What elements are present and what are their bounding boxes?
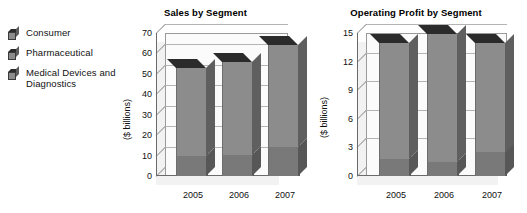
bar-segment-side	[252, 53, 261, 155]
bar-segment	[475, 43, 505, 153]
bar-top-face	[475, 34, 505, 43]
bar-segment	[379, 159, 409, 176]
chart-title: Sales by Segment	[108, 7, 303, 18]
cube-icon	[8, 49, 19, 60]
y-axis-tick-label: 70	[142, 28, 152, 38]
bar-segment-side	[457, 25, 466, 162]
bar-segment	[475, 152, 505, 176]
chart-operating-profit-by-segment: Operating Profit by Segment ($ billions)…	[305, 0, 527, 213]
y-axis-tick-label: 0	[348, 171, 353, 181]
x-axis-tick-label: 2005	[386, 190, 406, 200]
bar-segment-front	[427, 162, 459, 176]
bar-segment	[427, 34, 457, 162]
plot-area: 03691215200520062007	[357, 33, 507, 185]
bar-segment-front	[427, 34, 459, 162]
plot-floor	[156, 176, 279, 185]
bar-segment-front	[176, 68, 208, 156]
y-axis-tick-label: 0	[147, 171, 152, 181]
bar-segment-front	[475, 152, 507, 176]
y-axis-tick-label: 10	[142, 151, 152, 161]
cube-icon	[8, 69, 19, 80]
y-axis-tick-label: 15	[343, 28, 353, 38]
y-axis-tick-label: 60	[142, 48, 152, 58]
bar-top-face	[268, 36, 298, 45]
bar-segment	[222, 155, 252, 176]
y-axis-tick-label: 9	[348, 85, 353, 95]
y-axis-label: ($ billions)	[319, 97, 329, 138]
bar-top-face	[379, 34, 409, 43]
bar-segment	[427, 162, 457, 176]
bar-segment	[176, 68, 206, 156]
bar-segment-side	[206, 59, 215, 156]
y-axis-tick-label: 50	[142, 69, 152, 79]
chart-title: Operating Profit by Segment	[305, 7, 527, 18]
legend-item-label: Consumer	[26, 27, 71, 38]
bar-segment-front	[268, 147, 300, 176]
x-axis-tick-label: 2005	[183, 190, 203, 200]
bar-top-face	[222, 53, 252, 62]
plot-floor	[357, 176, 498, 185]
chart-figure: Consumer Pharmaceutical Medical Devices …	[0, 0, 527, 213]
x-axis-tick-label: 2006	[434, 190, 454, 200]
x-axis-tick-label: 2007	[482, 190, 502, 200]
bar-segment	[379, 43, 409, 159]
y-axis-tick-label: 40	[142, 89, 152, 99]
plot-area: 010203040506070200520062007	[156, 33, 288, 185]
y-axis-tick-label: 6	[348, 114, 353, 124]
bar-segment-side	[505, 34, 514, 153]
bar-segment	[176, 156, 206, 176]
chart-sales-by-segment: Sales by Segment ($ billions) 0102030405…	[108, 0, 303, 213]
y-axis-line	[357, 33, 358, 176]
cube-icon	[8, 29, 19, 40]
y-axis-tick-label: 20	[142, 130, 152, 140]
bar-segment-front	[222, 62, 254, 155]
bar-segment	[268, 45, 298, 147]
bar-segment-front	[379, 159, 411, 176]
bar-segment	[222, 62, 252, 155]
bar-top-face	[427, 25, 457, 34]
bar-segment-front	[176, 156, 208, 176]
y-axis-label: ($ billions)	[122, 99, 132, 140]
bar-segment-front	[268, 45, 300, 147]
y-axis-tick-label: 3	[348, 142, 353, 152]
bar-segment-front	[475, 43, 507, 153]
bar-segment-front	[222, 155, 254, 176]
bar-segment	[268, 147, 298, 176]
y-axis-tick-label: 30	[142, 110, 152, 120]
gridline	[165, 24, 288, 25]
y-axis-line	[156, 33, 157, 176]
bar-top-face	[176, 59, 206, 68]
x-axis-tick-label: 2007	[275, 190, 295, 200]
y-axis-tick-label: 12	[343, 57, 353, 67]
bar-segment-side	[409, 34, 418, 159]
bar-segment-front	[379, 43, 411, 159]
x-axis-tick-label: 2006	[229, 190, 249, 200]
legend-item-label: Pharmaceutical	[26, 47, 93, 58]
